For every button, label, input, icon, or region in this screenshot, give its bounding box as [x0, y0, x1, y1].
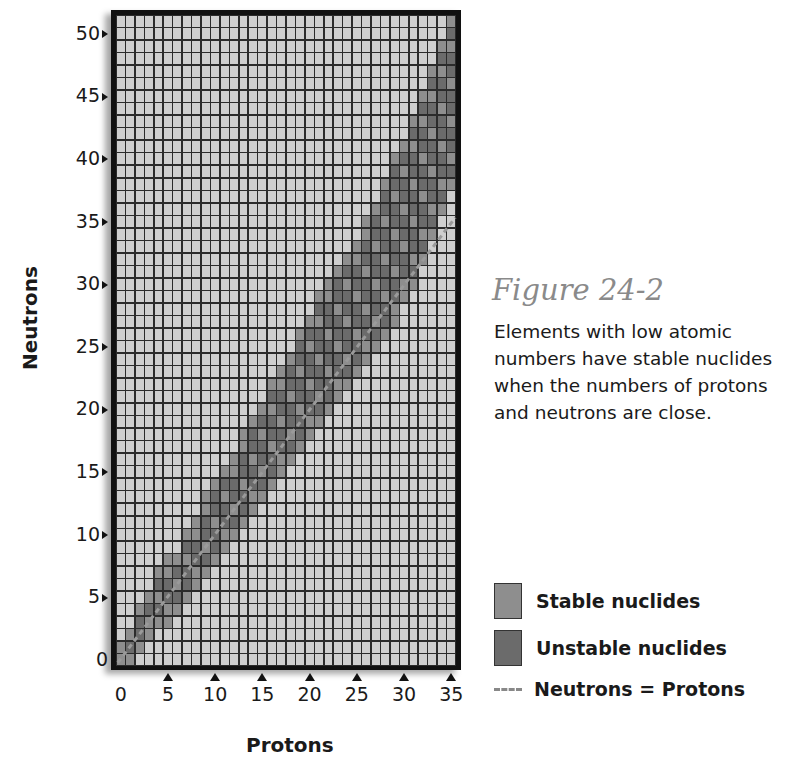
y-tick-label: 10 — [48, 523, 108, 545]
x-tick-label: 20 — [290, 683, 330, 705]
y-tick-label: 15 — [48, 460, 108, 482]
y-tick-label: 35 — [48, 210, 108, 232]
tick-marker-icon — [102, 30, 108, 38]
y-tick-label: 0 — [48, 648, 108, 670]
tick-marker-icon — [305, 673, 315, 681]
legend-line-label: Neutrons = Protons — [534, 678, 745, 700]
y-tick-label: 25 — [48, 335, 108, 357]
stable-swatch-icon — [494, 583, 522, 619]
tick-marker-icon — [102, 281, 108, 289]
tick-marker-icon — [102, 155, 108, 163]
figure-caption: Elements with low atomic numbers have st… — [494, 318, 784, 426]
y-tick-label: 40 — [48, 147, 108, 169]
x-tick-label: 35 — [431, 683, 471, 705]
x-tick-label: 15 — [242, 683, 282, 705]
y-tick-label: 30 — [48, 272, 108, 294]
legend-stable-label: Stable nuclides — [536, 590, 700, 612]
x-tick-label: 5 — [148, 683, 188, 705]
y-tick-label: 20 — [48, 397, 108, 419]
legend-unstable-label: Unstable nuclides — [536, 637, 727, 659]
x-tick-label: 25 — [337, 683, 377, 705]
legend-unstable: Unstable nuclides — [494, 630, 727, 666]
dashed-line-icon — [494, 688, 522, 691]
tick-marker-icon — [102, 468, 108, 476]
legend-stable: Stable nuclides — [494, 583, 700, 619]
tick-marker-icon — [102, 343, 108, 351]
tick-marker-icon — [102, 93, 108, 101]
tick-marker-icon — [399, 673, 409, 681]
tick-marker-icon — [257, 673, 267, 681]
y-tick-label: 45 — [48, 84, 108, 106]
figure-title: Figure 24-2 — [492, 273, 664, 307]
tick-marker-icon — [102, 531, 108, 539]
tick-marker-icon — [102, 406, 108, 414]
tick-marker-icon — [352, 673, 362, 681]
x-tick-label: 0 — [101, 683, 141, 705]
legend-line: Neutrons = Protons — [494, 678, 745, 700]
tick-marker-icon — [102, 218, 108, 226]
x-tick-label: 30 — [384, 683, 424, 705]
y-axis-label: Neutrons — [18, 266, 42, 370]
x-axis-label: Protons — [246, 733, 334, 757]
tick-marker-icon — [446, 673, 456, 681]
x-tick-label: 10 — [195, 683, 235, 705]
y-tick-label: 50 — [48, 22, 108, 44]
tick-marker-icon — [210, 673, 220, 681]
tick-marker-icon — [102, 594, 108, 602]
tick-marker-icon — [163, 673, 173, 681]
y-tick-label: 5 — [48, 585, 108, 607]
unstable-swatch-icon — [494, 630, 522, 666]
